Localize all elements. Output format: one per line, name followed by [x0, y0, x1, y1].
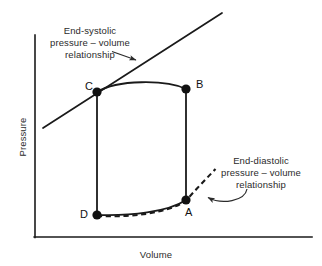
point-D-dot [92, 210, 101, 219]
edpvr-dashed-curve [97, 169, 216, 216]
point-D-label: D [80, 208, 88, 220]
x-axis-title: Volume [121, 249, 191, 261]
point-C-dot [92, 87, 101, 96]
loop-segment-ejection [97, 82, 186, 92]
espvr-annotation-line3: relationship [36, 49, 144, 61]
edpvr-annotation-line3: relationship [205, 179, 317, 191]
pv-loop-figure: End-systolic pressure – volume relations… [0, 0, 322, 266]
point-B-label: B [196, 78, 203, 90]
edpvr-annotation-line2: pressure – volume [205, 167, 317, 179]
loop-segment-filling [97, 200, 186, 215]
espvr-annotation: End-systolic pressure – volume relations… [36, 25, 144, 61]
point-B-dot [181, 84, 190, 93]
point-C-label: C [85, 80, 93, 92]
edpvr-annotation-line1: End-diastolic [205, 155, 317, 167]
espvr-annotation-line1: End-systolic [36, 25, 144, 37]
y-axis-title: Pressure [17, 102, 29, 172]
point-A-dot [181, 195, 190, 204]
edpvr-annotation: End-diastolic pressure – volume relation… [205, 155, 317, 191]
espvr-annotation-line2: pressure – volume [36, 37, 144, 49]
point-A-label: A [185, 206, 192, 218]
